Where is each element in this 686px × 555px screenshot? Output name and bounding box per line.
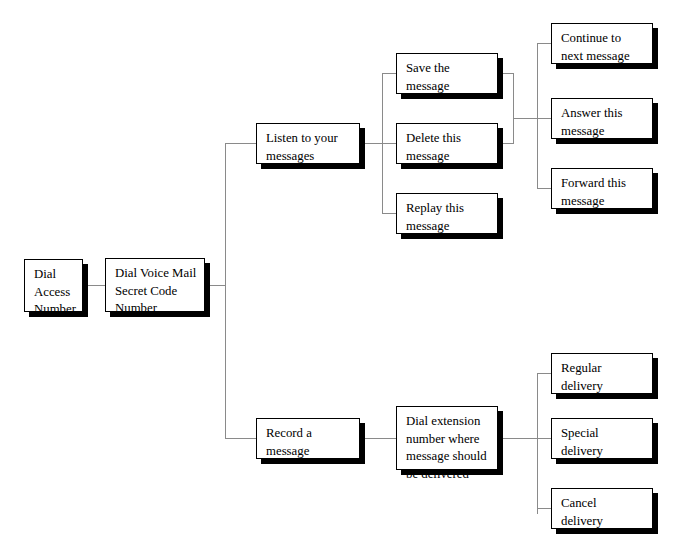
connector-c-join-save-delete — [513, 73, 514, 144]
node-listen-messages[interactable]: Listen to your messages — [256, 123, 360, 164]
connector-c-to-answer — [537, 118, 552, 119]
node-label: Continue to next message — [551, 23, 653, 64]
node-label: Special delivery — [551, 418, 653, 459]
node-answer-message[interactable]: Answer this message — [551, 98, 653, 139]
connector-c-spine-main — [225, 143, 226, 439]
node-label: Listen to your messages — [256, 123, 360, 164]
node-label: Dial extension number where message shou… — [396, 406, 498, 470]
node-delete-message[interactable]: Delete this message — [396, 123, 498, 164]
connector-c-to-forward — [537, 188, 552, 189]
node-label: Delete this message — [396, 123, 498, 164]
connector-c-trunk-delivery — [537, 373, 538, 514]
node-special-delivery[interactable]: Special delivery — [551, 418, 653, 459]
node-label: Answer this message — [551, 98, 653, 139]
connector-c-record-stub — [360, 438, 397, 439]
node-dial-access-number[interactable]: Dial Access Number — [24, 259, 83, 312]
node-label: Save the message — [396, 53, 498, 94]
connector-c-spine-to-record — [225, 438, 256, 439]
node-dial-extension[interactable]: Dial extension number where message shou… — [396, 406, 498, 470]
node-dial-secret-code[interactable]: Dial Voice Mail Secret Code Number — [105, 258, 205, 312]
node-label: Replay this message — [396, 193, 498, 234]
connector-c-to-replay — [382, 213, 396, 214]
node-label: Record a message — [256, 418, 360, 459]
node-label: Dial Access Number — [24, 259, 83, 312]
connector-c-to-continue — [537, 43, 552, 44]
node-label: Cancel delivery — [551, 488, 653, 529]
node-regular-delivery[interactable]: Regular delivery — [551, 353, 653, 394]
node-label: Dial Voice Mail Secret Code Number — [105, 258, 205, 312]
connector-c-join-to-trunk — [513, 118, 538, 119]
connector-c-to-save — [382, 73, 396, 74]
node-label: Regular delivery — [551, 353, 653, 394]
flowchart-canvas: Dial Access NumberDial Voice Mail Secret… — [0, 0, 686, 555]
connector-c-trunk-actions — [537, 43, 538, 189]
node-label: Forward this message — [551, 168, 653, 209]
node-cancel-delivery[interactable]: Cancel delivery — [551, 488, 653, 529]
connector-c-to-cancel — [537, 508, 552, 509]
connector-c-to-delete — [382, 143, 396, 144]
connector-c-spine-to-listen — [225, 143, 256, 144]
connector-c-to-special — [537, 438, 552, 439]
connector-c-extension-stub — [498, 438, 538, 439]
node-forward-message[interactable]: Forward this message — [551, 168, 653, 209]
node-continue-next[interactable]: Continue to next message — [551, 23, 653, 64]
connector-c-to-regular — [537, 373, 552, 374]
node-record-message[interactable]: Record a message — [256, 418, 360, 459]
node-save-message[interactable]: Save the message — [396, 53, 498, 94]
node-replay-message[interactable]: Replay this message — [396, 193, 498, 234]
